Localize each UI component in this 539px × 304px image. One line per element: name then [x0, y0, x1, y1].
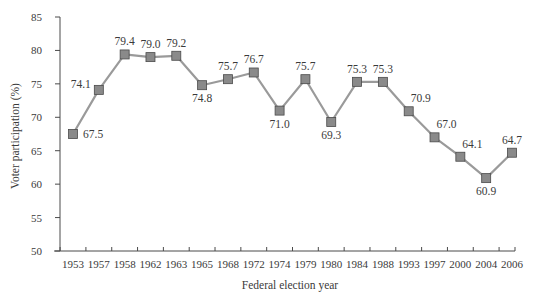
data-label: 76.7: [244, 53, 264, 65]
y-tick-label: 60: [31, 178, 43, 190]
x-tick-label: 1974: [269, 258, 292, 270]
x-tick-label: 2004: [475, 258, 498, 270]
data-marker: [223, 75, 232, 84]
data-label: 75.3: [347, 63, 367, 75]
x-tick-label: 1980: [320, 258, 343, 270]
x-tick-label: 2006: [501, 258, 524, 270]
data-marker: [430, 133, 439, 142]
data-marker: [456, 152, 465, 161]
data-label: 69.3: [321, 129, 341, 141]
x-axis: 1953195719581962196319651968197219741979…: [54, 247, 524, 270]
data-marker: [301, 75, 310, 84]
y-tick-label: 55: [31, 212, 43, 224]
data-label: 79.2: [166, 37, 186, 49]
line-chart: 5055606570758085 19531957195819621963196…: [0, 0, 539, 304]
data-label: 74.1: [71, 78, 91, 90]
x-tick-label: 2000: [449, 258, 472, 270]
y-tick-label: 50: [31, 245, 43, 257]
data-label: 79.0: [140, 38, 160, 50]
data-label: 60.9: [476, 185, 496, 197]
data-labels: 67.574.179.479.079.274.875.776.771.075.7…: [71, 35, 523, 197]
y-tick-label: 85: [31, 11, 43, 23]
data-marker: [146, 53, 155, 62]
x-axis-title: Federal election year: [242, 279, 339, 292]
series-polyline: [73, 54, 512, 178]
x-tick-label: 1953: [62, 258, 85, 270]
data-label: 64.7: [502, 134, 522, 146]
data-marker: [120, 50, 129, 59]
data-marker: [69, 130, 78, 139]
data-marker: [353, 77, 362, 86]
data-label: 75.7: [295, 60, 315, 72]
data-marker: [378, 77, 387, 86]
y-tick-label: 65: [31, 145, 43, 157]
x-tick-label: 1965: [191, 258, 214, 270]
y-axis: 5055606570758085: [31, 11, 60, 257]
data-label: 79.4: [115, 35, 135, 47]
data-label: 75.7: [218, 60, 238, 72]
x-tick-label: 1963: [165, 258, 188, 270]
data-label: 74.8: [192, 92, 212, 104]
data-label: 67.5: [83, 128, 103, 140]
x-tick-label: 1968: [217, 258, 240, 270]
y-tick-label: 80: [31, 44, 43, 56]
y-axis-title: Voter participation (%): [9, 83, 22, 189]
x-tick-label: 1962: [139, 258, 161, 270]
x-tick-label: 1957: [88, 258, 111, 270]
y-tick-label: 70: [31, 111, 43, 123]
x-tick-label: 1997: [424, 258, 447, 270]
data-marker: [198, 81, 207, 90]
data-marker: [327, 117, 336, 126]
x-tick-label: 1993: [398, 258, 421, 270]
data-marker: [404, 107, 413, 116]
data-label: 71.0: [270, 118, 290, 130]
data-label: 75.3: [373, 63, 393, 75]
x-tick-label: 1988: [372, 258, 395, 270]
x-tick-label: 1984: [346, 258, 369, 270]
data-label: 70.9: [411, 92, 431, 104]
data-marker: [508, 148, 517, 157]
x-tick-label: 1972: [243, 258, 265, 270]
data-marker: [275, 106, 284, 115]
data-label: 67.0: [436, 118, 456, 130]
data-marker: [94, 85, 103, 94]
y-tick-label: 75: [31, 78, 43, 90]
x-tick-label: 1979: [294, 258, 317, 270]
data-label: 64.1: [462, 138, 482, 150]
data-marker: [172, 51, 181, 60]
data-marker: [249, 68, 258, 77]
data-marker: [482, 174, 491, 183]
x-tick-label: 1958: [114, 258, 137, 270]
series-line: [69, 50, 517, 183]
